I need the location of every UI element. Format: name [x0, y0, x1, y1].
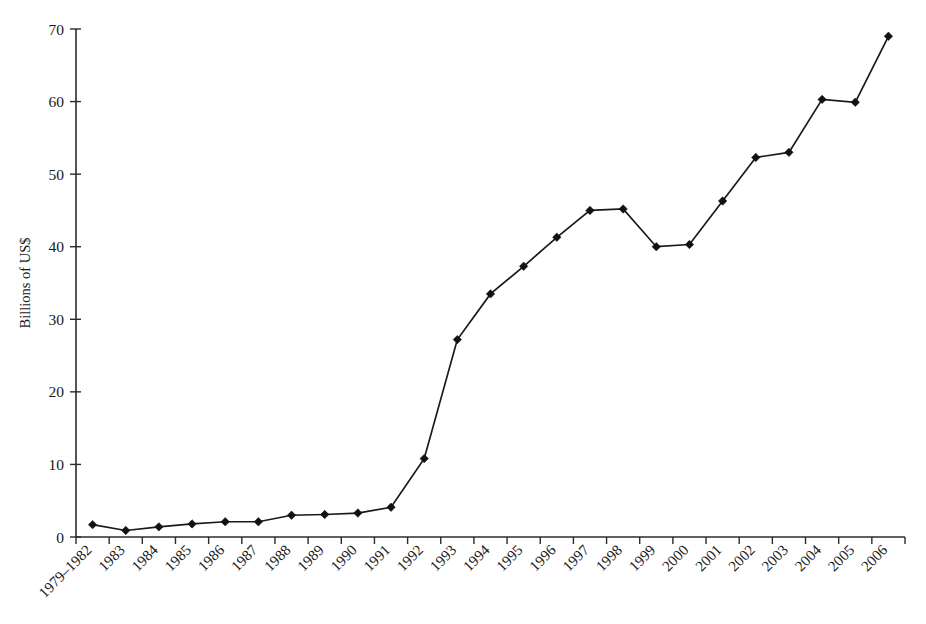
x-tick-label: 2004: [792, 541, 825, 574]
y-tick-label: 70: [49, 21, 65, 38]
y-tick-label: 0: [56, 529, 64, 546]
x-tick-label: 1998: [593, 542, 626, 575]
series-polyline: [93, 36, 889, 530]
x-tick-label: 1989: [294, 542, 327, 575]
line-chart: 010203040506070 1979–1982198319841985198…: [0, 0, 926, 624]
data-point-marker: [818, 95, 826, 103]
x-tick-label: 2006: [858, 541, 891, 574]
data-point-marker: [354, 509, 362, 517]
x-tick-label: 1994: [460, 541, 493, 574]
y-tick-label: 50: [49, 166, 65, 183]
x-tick-label: 2003: [759, 542, 792, 575]
data-point-marker: [88, 520, 96, 528]
x-tick-label: 1995: [493, 542, 526, 575]
x-tick-label: 1986: [195, 541, 228, 574]
x-tick-label: 1983: [95, 542, 128, 575]
data-point-marker: [287, 511, 295, 519]
x-tick-label: 1993: [427, 542, 460, 575]
x-tick-label: 1996: [526, 541, 559, 574]
x-tick-label: 1992: [394, 542, 427, 575]
x-tick-label: 2000: [659, 542, 692, 575]
x-tick-label: 1997: [560, 541, 593, 574]
x-tick-label: 2005: [825, 542, 858, 575]
x-tick-label: 1990: [327, 542, 360, 575]
x-tick-label: 1984: [128, 541, 161, 574]
data-point-marker: [221, 518, 229, 526]
x-tick-label: 1991: [361, 542, 394, 575]
x-tick-label: 1988: [261, 542, 294, 575]
y-tick-label: 40: [49, 238, 65, 255]
x-axis: 1979–19821983198419851986198719881989199…: [36, 537, 905, 601]
x-tick-label: 2001: [692, 542, 725, 575]
y-axis: 010203040506070: [49, 21, 82, 546]
y-tick-label: 30: [49, 311, 65, 328]
data-point-marker: [122, 526, 130, 534]
data-point-marker: [155, 523, 163, 531]
x-tick-label: 1979–1982: [36, 542, 95, 601]
data-point-marker: [851, 98, 859, 106]
y-tick-label: 10: [49, 456, 65, 473]
x-tick-label: 1987: [228, 541, 261, 574]
data-point-marker: [785, 148, 793, 156]
data-point-marker: [884, 32, 892, 40]
y-tick-label: 60: [49, 93, 65, 110]
y-tick-label: 20: [49, 383, 65, 400]
x-tick-label: 2002: [725, 542, 758, 575]
x-tick-label: 1999: [626, 542, 659, 575]
data-series: [88, 32, 892, 535]
data-point-marker: [188, 520, 196, 528]
data-point-marker: [254, 518, 262, 526]
x-tick-label: 1985: [162, 542, 195, 575]
y-axis-title: Billions of US$: [17, 237, 33, 328]
y-axis-title-text: Billions of US$: [17, 237, 33, 328]
chart-canvas: 010203040506070 1979–1982198319841985198…: [0, 0, 926, 624]
data-point-marker: [321, 510, 329, 518]
